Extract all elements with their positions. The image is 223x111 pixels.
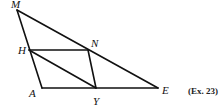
point-label-E: E — [162, 85, 169, 96]
segment-NY — [88, 50, 96, 88]
figure-caption: (Ex. 23) — [188, 87, 218, 96]
point-label-M: M — [11, 0, 20, 10]
point-label-H: H — [18, 45, 26, 56]
point-label-A: A — [29, 88, 36, 99]
point-label-N: N — [91, 38, 98, 49]
point-label-Y: Y — [93, 96, 99, 107]
segment-HY — [29, 50, 96, 88]
